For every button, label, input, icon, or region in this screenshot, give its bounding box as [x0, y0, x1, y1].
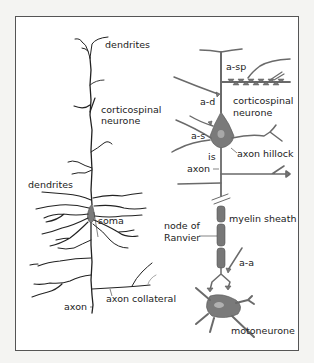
label-axon-collateral: axon collateral	[106, 293, 176, 304]
label-axon-hillock: axon hillock	[237, 148, 294, 159]
label-a-sp: a-sp	[226, 61, 246, 72]
label-corticospinal-left-1: corticospinal	[101, 104, 161, 115]
label-is: is	[208, 151, 216, 162]
label-soma: soma	[98, 215, 124, 226]
pyramidal-neurone-drawing	[30, 37, 156, 313]
label-a-a: a-a	[239, 257, 254, 268]
label-corticospinal-right-2: neurone	[233, 107, 272, 118]
label-axon-right: axon	[187, 163, 210, 174]
label-dendrites-left: dendrites	[28, 179, 73, 190]
label-node-of: node of	[164, 220, 201, 231]
label-ranvier: Ranvier	[164, 232, 200, 243]
label-corticospinal-right-1: corticospinal	[233, 95, 293, 106]
label-dendrites-top: dendrites	[105, 39, 150, 50]
label-a-d: a-d	[200, 96, 215, 107]
label-corticospinal-left-2: neurone	[101, 115, 140, 126]
label-a-s: a-s	[191, 130, 205, 141]
label-motoneurone: motoneurone	[231, 325, 295, 336]
neuron-diagram: dendrites corticospinal neurone dendrite…	[0, 0, 314, 363]
schematic-neurone	[172, 49, 290, 337]
label-myelin-sheath: myelin sheath	[229, 213, 296, 224]
label-axon-left: axon	[64, 301, 87, 312]
